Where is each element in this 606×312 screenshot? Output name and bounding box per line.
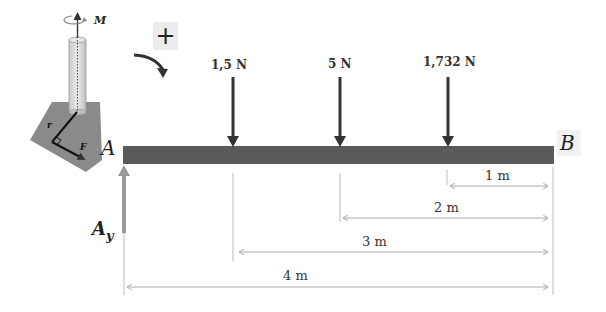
beam [123, 146, 554, 164]
point-b-label: B [560, 131, 575, 155]
dim-label-2m: 2 m [434, 200, 459, 215]
beam-diagram: M r F + A B 1,5 N 5 N 1,732 N Ay 1 m 2 m… [0, 0, 606, 312]
reaction-label: Ay [92, 218, 114, 243]
clockwise-arrow-icon [134, 55, 163, 70]
r-label: r [47, 120, 52, 130]
load-label-3: 1,732 N [423, 55, 476, 69]
reaction-label-sub: y [106, 228, 114, 243]
dim-label-4m: 4 m [283, 268, 308, 283]
load-label-2: 5 N [328, 57, 352, 71]
load-label-1: 1,5 N [211, 58, 247, 72]
moment-rotation-icon [64, 16, 84, 24]
base-plate [30, 102, 102, 172]
diagram-graphics [0, 0, 606, 312]
moment-label: M [94, 14, 106, 27]
point-a-label: A [101, 136, 115, 160]
f-label: F [80, 142, 86, 152]
positive-sign-convention: + [153, 22, 178, 50]
dim-label-3m: 3 m [362, 234, 387, 249]
dim-label-1m: 1 m [485, 168, 510, 183]
reaction-label-main: A [92, 218, 106, 239]
inset-illustration [30, 16, 102, 172]
